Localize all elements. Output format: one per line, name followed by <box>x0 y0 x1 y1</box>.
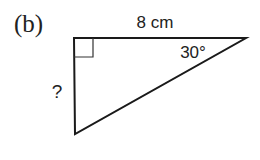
right-angle-marker <box>74 38 93 57</box>
triangle <box>74 38 246 134</box>
triangle-diagram: (b) 8 cm 30° ? <box>0 0 260 160</box>
top-side-length-label: 8 cm <box>137 13 174 32</box>
unknown-side-label: ? <box>52 81 63 102</box>
figure-label: (b) <box>14 10 43 38</box>
angle-label: 30° <box>180 43 206 62</box>
